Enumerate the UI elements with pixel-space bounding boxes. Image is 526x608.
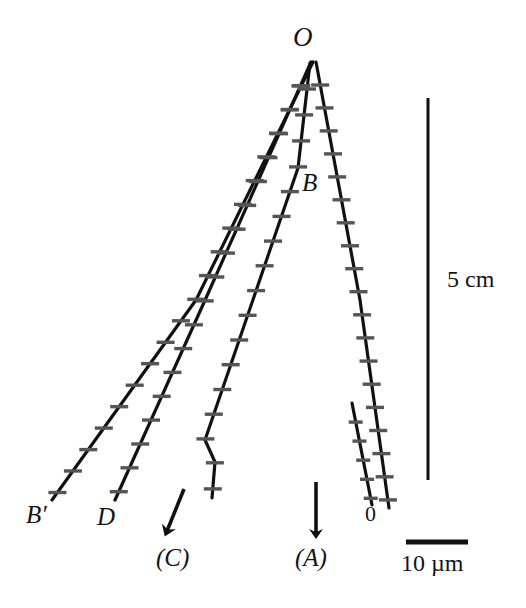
arrow-C xyxy=(167,489,184,531)
scale-bar-group xyxy=(406,98,468,542)
trace-d xyxy=(115,62,311,500)
branch-label-B: B xyxy=(302,170,317,195)
trace-label-a: (A) xyxy=(295,545,327,570)
horizontal-scale-label: 10 µm xyxy=(401,551,464,575)
trace-0reference xyxy=(352,403,372,505)
fan-trace-figure xyxy=(0,0,526,608)
origin-label-zero: 0 xyxy=(365,503,376,525)
trace-label-d: D xyxy=(97,504,115,529)
tick-group xyxy=(48,85,397,500)
trace-label-b-prime: B′ xyxy=(26,502,47,527)
trace-b xyxy=(52,62,313,500)
trace-group xyxy=(52,62,389,508)
apex-label-O: O xyxy=(293,24,313,51)
trace-label-c: (C) xyxy=(156,545,189,570)
trace-c xyxy=(205,63,310,498)
vertical-scale-label: 5 cm xyxy=(447,267,494,291)
arrow-group xyxy=(167,482,316,534)
